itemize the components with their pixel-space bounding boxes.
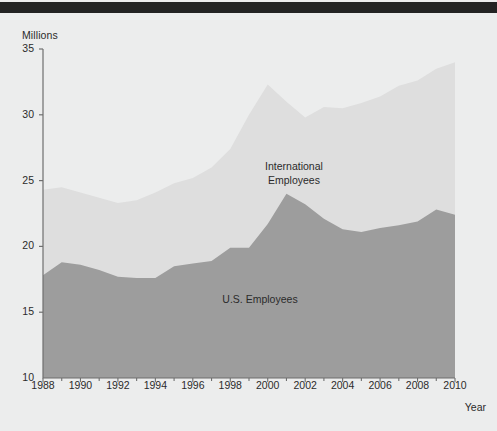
x-tick-label: 2000 <box>248 379 288 391</box>
x-tick-label: 2008 <box>398 379 438 391</box>
x-tick-label: 1994 <box>135 379 175 391</box>
x-tick-label: 2006 <box>360 379 400 391</box>
y-tick-label: 15 <box>8 305 34 317</box>
x-tick-label: 1996 <box>173 379 213 391</box>
x-tick-label: 1988 <box>23 379 63 391</box>
y-tick-label: 30 <box>8 108 34 120</box>
chart-canvas: Millions 353025201510 198819901992199419… <box>0 13 497 431</box>
y-axis-unit-label: Millions <box>22 29 58 41</box>
y-tick-label: 25 <box>8 174 34 186</box>
top-rule-banner <box>0 2 497 13</box>
series-label-international-line1: International <box>230 159 358 173</box>
series-label-us: U.S. Employees <box>196 292 324 306</box>
x-tick-label: 1990 <box>60 379 100 391</box>
x-tick-label: 2010 <box>435 379 475 391</box>
x-tick-label: 1992 <box>98 379 138 391</box>
y-tick-label: 35 <box>8 42 34 54</box>
area-chart-svg <box>0 13 497 431</box>
y-tick-label: 20 <box>8 239 34 251</box>
chart-page: Millions 353025201510 198819901992199419… <box>0 0 497 431</box>
x-axis-title: Year <box>465 401 486 413</box>
x-tick-label: 2002 <box>285 379 325 391</box>
x-tick-label: 1998 <box>210 379 250 391</box>
series-label-international: International Employees <box>230 159 358 187</box>
x-tick-label: 2004 <box>323 379 363 391</box>
series-label-international-line2: Employees <box>230 173 358 187</box>
